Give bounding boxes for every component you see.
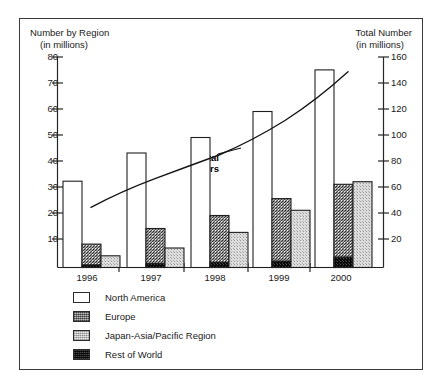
bar-group-1998 <box>191 138 248 268</box>
legend-swatch-north-america <box>73 292 90 303</box>
bar-rest-of-world-2000 <box>334 257 353 267</box>
bar-group-1996 <box>63 181 120 267</box>
legend-item-japan-asia-pacific: Japan-Asia/Pacific Region <box>73 326 216 345</box>
legend-swatch-europe <box>73 311 90 322</box>
bar-north-america-1998 <box>191 138 210 268</box>
bar-japan-asia-pacific-1998 <box>229 232 248 267</box>
bar-group-1997 <box>127 153 184 268</box>
legend-item-europe: Europe <box>73 307 216 326</box>
bar-north-america-1997 <box>127 153 146 268</box>
bar-japan-asia-pacific-1997 <box>165 248 184 268</box>
bar-europe-1999 <box>272 199 291 268</box>
chart-figure: Number by Region (in millions) Total Num… <box>0 0 442 388</box>
bar-north-america-2000 <box>315 70 334 268</box>
legend-label-rest-of-world: Rest of World <box>105 349 162 360</box>
bar-japan-asia-pacific-2000 <box>353 182 372 268</box>
bar-rest-of-world-1998 <box>210 262 229 267</box>
legend-label-north-america: North America <box>105 292 165 303</box>
total-users-leader-line <box>218 148 241 154</box>
legend-label-japan-asia-pacific: Japan-Asia/Pacific Region <box>105 330 216 341</box>
bar-japan-asia-pacific-1996 <box>101 256 120 268</box>
bar-europe-1998 <box>210 216 229 268</box>
bar-rest-of-world-1997 <box>146 264 165 268</box>
bar-japan-asia-pacific-1999 <box>291 210 310 267</box>
legend-swatch-rest-of-world <box>73 349 90 360</box>
bar-europe-1996 <box>82 244 101 267</box>
bar-rest-of-world-1996 <box>82 265 101 268</box>
legend-swatch-japan-asia-pacific <box>73 330 90 341</box>
bar-rest-of-world-1999 <box>272 261 291 268</box>
bar-europe-1997 <box>146 229 165 268</box>
chart-legend: North America Europe Japan-Asia/Pacific … <box>73 288 216 364</box>
legend-item-north-america: North America <box>73 288 216 307</box>
bar-north-america-1996 <box>63 181 82 267</box>
bar-north-america-1999 <box>253 112 272 268</box>
legend-item-rest-of-world: Rest of World <box>73 345 216 364</box>
chart-plot-area <box>0 0 442 388</box>
bar-europe-2000 <box>334 184 353 267</box>
bar-group-2000 <box>315 70 372 268</box>
legend-label-europe: Europe <box>105 311 136 322</box>
